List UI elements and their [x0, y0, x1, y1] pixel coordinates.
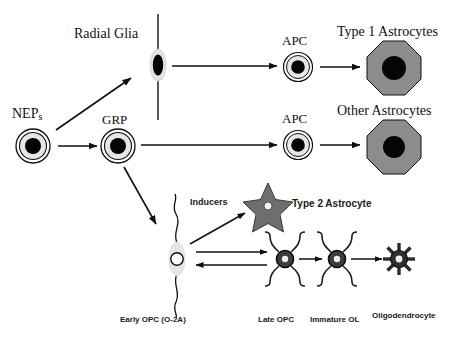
label-other-astrocytes: Other Astrocytes: [337, 104, 431, 118]
node-type1-astrocytes[interactable]: [367, 41, 421, 95]
label-late-opc: Late OPC: [258, 316, 294, 324]
node-neps[interactable]: [16, 129, 50, 163]
node-apc-bottom[interactable]: [284, 131, 313, 160]
label-apc-top: APC: [282, 34, 307, 47]
node-oligodendrocyte[interactable]: [383, 243, 415, 275]
node-type2-astrocyte[interactable]: [243, 183, 293, 232]
label-type2-astrocyte: Type 2 Astrocyte: [292, 199, 371, 209]
edge-early-opc-to-type2-astrocyte: [190, 213, 245, 244]
node-other-astrocytes[interactable]: [367, 120, 421, 174]
lineage-diagram: NEPs Radial Glia GRP APC APC Type 1 Astr…: [0, 0, 462, 337]
diagram-canvas: [0, 0, 462, 337]
node-grp[interactable]: [101, 129, 135, 163]
edge-grp-to-early-opc: [124, 167, 156, 224]
label-type1-astrocytes: Type 1 Astrocytes: [337, 25, 438, 39]
node-early-opc[interactable]: [169, 194, 185, 318]
label-early-opc: Early OPC (O-2A): [120, 316, 186, 324]
label-apc-bottom: APC: [282, 112, 307, 125]
label-neps: NEPs: [12, 107, 42, 121]
node-radial-glia[interactable]: [150, 14, 166, 120]
label-radial-glia: Radial Glia: [74, 27, 138, 41]
label-grp: GRP: [102, 113, 127, 126]
label-inducers: Inducers: [190, 198, 228, 207]
node-apc-top[interactable]: [284, 53, 313, 82]
label-oligodendrocyte: Oligodendrocyte: [372, 312, 436, 320]
label-immature-ol: Immature OL: [310, 316, 359, 324]
label-neps-subscript: s: [38, 111, 42, 122]
